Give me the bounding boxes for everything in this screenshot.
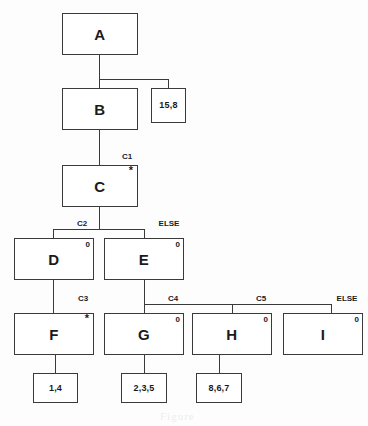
- node-2-3-5[interactable]: 2,3,5: [121, 373, 167, 403]
- connector-c-to-e: [144, 229, 145, 238]
- node-1-4[interactable]: 1,4: [33, 373, 78, 403]
- connector-a-to-n1: [168, 79, 169, 88]
- connector-b-to-c: [99, 130, 100, 165]
- node-e[interactable]: E 0: [104, 238, 184, 280]
- connector-a-to-b: [99, 79, 100, 88]
- node-b[interactable]: B: [62, 88, 138, 130]
- connector-f-to-n2: [55, 355, 56, 373]
- connector-a-bus: [99, 79, 169, 80]
- condition-label-c5: C5: [246, 294, 276, 303]
- node-g-label: G: [138, 327, 150, 342]
- condition-label-c3: C3: [68, 294, 98, 303]
- connector-e-stem: [144, 280, 145, 304]
- condition-label-else-e: ELSE: [152, 219, 186, 228]
- selection-marker-d: 0: [86, 240, 90, 249]
- connector-c-bus: [53, 229, 145, 230]
- connector-g-to-n3: [144, 355, 145, 373]
- node-2-3-5-label: 2,3,5: [133, 384, 154, 393]
- node-1-4-label: 1,4: [49, 384, 62, 393]
- node-i-label: I: [321, 327, 326, 342]
- iteration-marker-c: *: [129, 166, 133, 175]
- node-c[interactable]: C *: [62, 165, 138, 207]
- condition-label-else-i: ELSE: [330, 294, 364, 303]
- structure-diagram: C1 C2 ELSE C3 C4 C5 ELSE A B 15,8 C * D …: [0, 0, 368, 426]
- node-f[interactable]: F *: [14, 313, 94, 355]
- node-8-6-7-label: 8,6,7: [208, 384, 229, 393]
- node-g[interactable]: G 0: [104, 313, 184, 355]
- node-e-label: E: [139, 252, 150, 267]
- connector-c-to-d: [53, 229, 54, 238]
- connector-e-to-g: [144, 304, 145, 313]
- node-h-label: H: [226, 327, 237, 342]
- connector-h-to-n4: [219, 355, 220, 373]
- connector-c-stem: [99, 207, 100, 229]
- condition-label-c2: C2: [67, 219, 97, 228]
- connector-e-to-i: [331, 304, 332, 313]
- node-h[interactable]: H 0: [192, 313, 272, 355]
- node-8-6-7[interactable]: 8,6,7: [196, 373, 242, 403]
- condition-label-c1: C1: [112, 152, 142, 161]
- connector-e-bus: [144, 304, 332, 305]
- node-f-label: F: [49, 327, 59, 342]
- node-b-label: B: [94, 102, 105, 117]
- connector-a-stem: [99, 55, 100, 79]
- node-15-8-label: 15,8: [159, 101, 177, 110]
- iteration-marker-f: *: [85, 314, 89, 323]
- node-c-label: C: [94, 179, 105, 194]
- node-a[interactable]: A: [62, 13, 138, 55]
- node-d[interactable]: D 0: [14, 238, 94, 280]
- node-a-label: A: [94, 27, 105, 42]
- connector-e-to-h: [232, 304, 233, 313]
- selection-marker-g: 0: [176, 315, 180, 324]
- selection-marker-i: 0: [355, 315, 359, 324]
- selection-marker-e: 0: [176, 240, 180, 249]
- condition-label-c4: C4: [158, 294, 188, 303]
- node-i[interactable]: I 0: [283, 313, 363, 355]
- scan-artifact: Figure: [160, 410, 195, 422]
- node-d-label: D: [48, 252, 59, 267]
- node-15-8[interactable]: 15,8: [151, 88, 186, 123]
- connector-d-to-f: [53, 280, 54, 313]
- selection-marker-h: 0: [264, 315, 268, 324]
